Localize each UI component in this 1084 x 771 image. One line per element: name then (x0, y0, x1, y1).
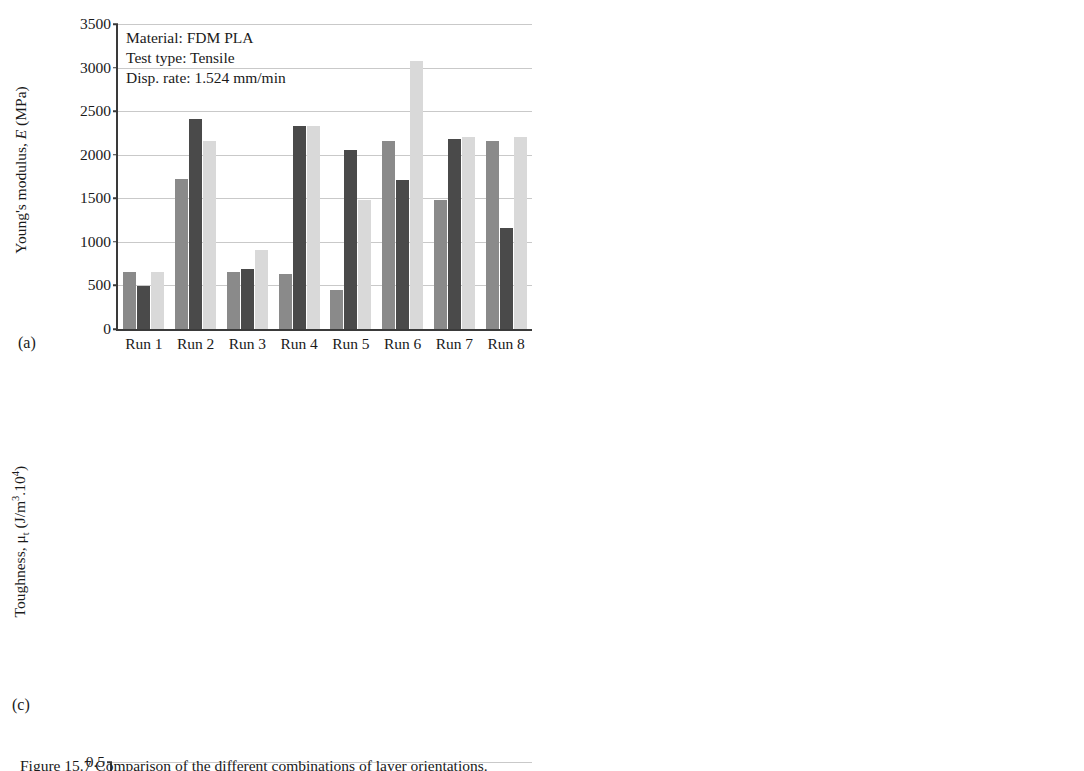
bar[interactable] (123, 272, 136, 330)
x-axis-labels: Run 1Run 2Run 3Run 4Run 5Run 6Run 7Run 8 (118, 335, 532, 353)
bar-group (377, 24, 429, 329)
figure-container: Young's modulus, E (MPa) 050010001500200… (0, 0, 1084, 771)
bar[interactable] (279, 274, 292, 329)
y-tick-label: 2500 (80, 103, 111, 119)
y-tick-label: 0 (103, 321, 111, 337)
x-tick-label: Run 3 (222, 335, 274, 353)
bar[interactable] (307, 126, 320, 329)
x-tick-label: Run 1 (118, 335, 170, 353)
annotation-box: Material: FDM PLA Test type: Tensile Dis… (126, 28, 286, 87)
x-tick-label: Run 6 (377, 335, 429, 353)
y-tick-label: 500 (88, 277, 111, 293)
y-tick-label: 3000 (80, 60, 111, 76)
bar-group (480, 24, 532, 329)
y-axis-title-a: Young's modulus, E (MPa) (8, 20, 34, 320)
bar[interactable] (358, 200, 371, 329)
bar[interactable] (434, 200, 447, 329)
chart-panel-d: Ultimate tensile strength, σutx (MPa) 05… (542, 370, 1084, 740)
bar[interactable] (203, 141, 216, 329)
annotation-disp-rate: Disp. rate: 1.524 mm/min (126, 68, 286, 88)
bar[interactable] (410, 61, 423, 329)
bar[interactable] (344, 150, 357, 330)
panel-letter-c: (c) (12, 696, 30, 714)
bar-group (325, 24, 377, 329)
bar[interactable] (382, 141, 395, 329)
bar[interactable] (396, 180, 409, 329)
panel-letter-a: (a) (18, 334, 36, 352)
bar[interactable] (330, 290, 343, 329)
bar[interactable] (189, 119, 202, 329)
bar-group (429, 24, 481, 329)
bar[interactable] (500, 228, 513, 329)
x-tick-label: Run 2 (170, 335, 222, 353)
annotation-test-type: Test type: Tensile (126, 48, 286, 68)
x-tick-label: Run 8 (480, 335, 532, 353)
chart-panel-c: Toughness, μt (J/m3.104) 00.050.10.150.2… (0, 370, 542, 740)
y-axis-title-c: Toughness, μt (J/m3.104) (8, 392, 34, 692)
bar[interactable] (462, 137, 475, 329)
figure-caption: Figure 15.7 Comparison of the different … (20, 757, 488, 771)
y-tick-label: 1000 (80, 234, 111, 250)
y-tick-label: 3500 (80, 16, 111, 31)
bar[interactable] (486, 141, 499, 329)
bar[interactable] (514, 137, 527, 329)
bar[interactable] (175, 179, 188, 329)
bar[interactable] (151, 272, 164, 330)
chart-panel-a: Young's modulus, E (MPa) 050010001500200… (0, 0, 542, 370)
bar[interactable] (293, 126, 306, 329)
bar[interactable] (448, 139, 461, 329)
bar[interactable] (137, 286, 150, 329)
x-tick-label: Run 7 (429, 335, 481, 353)
bar[interactable] (255, 250, 268, 329)
bar[interactable] (227, 272, 240, 329)
bar[interactable] (241, 269, 254, 329)
chart-panel-b: 0.2% yield strength, σy (Mpa) 0510152025… (542, 0, 1084, 370)
y-tick-label: 1500 (80, 190, 111, 206)
x-tick-label: Run 5 (325, 335, 377, 353)
y-tick-label: 2000 (80, 147, 111, 163)
annotation-material: Material: FDM PLA (126, 28, 286, 48)
x-tick-label: Run 4 (273, 335, 325, 353)
